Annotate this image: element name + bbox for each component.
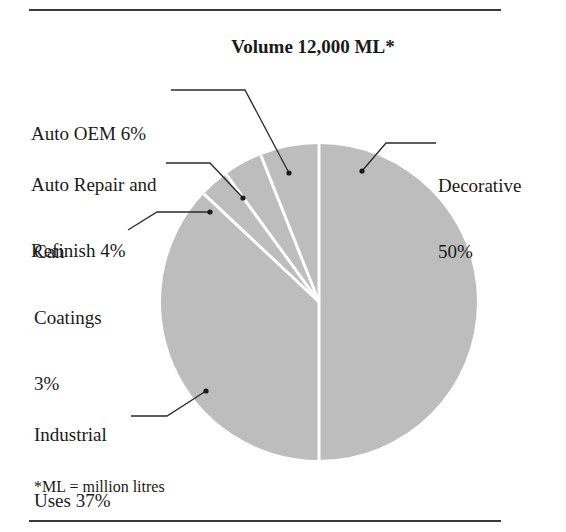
- label-can-coatings-value: 3%: [34, 373, 102, 395]
- label-industrial-name: Industrial: [34, 424, 111, 446]
- footnote: *ML = million litres: [34, 478, 165, 496]
- label-decorative-value: 50%: [438, 241, 521, 263]
- label-decorative: Decorative 50%: [438, 131, 521, 285]
- label-auto-repair-line1: Auto Repair and: [31, 174, 157, 196]
- label-can-coatings-line2: Coatings: [34, 307, 102, 329]
- label-auto-oem: Auto OEM 6%: [31, 79, 146, 167]
- label-auto-oem-text: Auto OEM 6%: [31, 123, 146, 145]
- label-auto-repair-value: Refinish 4%: [31, 240, 157, 262]
- label-decorative-name: Decorative: [438, 175, 521, 197]
- bottom-rule: [29, 520, 501, 522]
